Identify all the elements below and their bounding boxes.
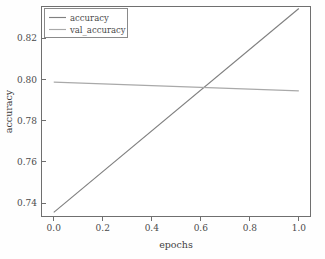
x-tick-label-5: 1.0 (292, 223, 307, 233)
x-tick-label-4: 0.8 (243, 223, 258, 233)
legend-label-val-accuracy: val_accuracy (69, 25, 126, 36)
chart-figure: 0.74 0.76 0.78 0.80 0.82 0.0 0.2 0.4 0.6… (0, 0, 325, 259)
x-tick-label-2: 0.4 (145, 223, 160, 233)
y-tick-label-0: 0.74 (17, 198, 37, 208)
legend-label-accuracy: accuracy (70, 13, 109, 23)
x-tick-label-1: 0.2 (96, 223, 110, 233)
x-tick-marks (54, 217, 299, 221)
y-tick-label-2: 0.78 (17, 116, 37, 126)
chart-canvas: 0.74 0.76 0.78 0.80 0.82 0.0 0.2 0.4 0.6… (0, 0, 325, 259)
y-tick-label-1: 0.76 (17, 157, 37, 167)
y-tick-label-3: 0.80 (17, 75, 37, 85)
x-axis-label: epochs (159, 239, 193, 250)
y-axis-label: accuracy (3, 89, 14, 133)
y-tick-label-4: 0.82 (17, 33, 37, 43)
x-tick-label-0: 0.0 (47, 223, 62, 233)
x-tick-label-3: 0.6 (194, 223, 209, 233)
chart-legend[interactable]: accuracy val_accuracy (45, 9, 128, 38)
